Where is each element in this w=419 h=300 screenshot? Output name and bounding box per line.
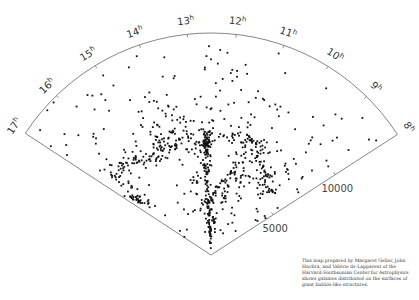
galaxy-point	[111, 164, 113, 166]
galaxy-point	[228, 155, 230, 157]
galaxy-point	[157, 107, 159, 109]
galaxy-point	[284, 165, 286, 167]
galaxy-point	[183, 116, 185, 118]
galaxy-point	[227, 174, 229, 176]
galaxy-point	[141, 159, 143, 161]
galaxy-point	[200, 151, 202, 153]
hour-label-10h: 10h	[325, 45, 346, 64]
galaxy-point	[165, 157, 167, 159]
galaxy-point	[209, 233, 211, 235]
galaxy-point	[124, 195, 126, 197]
galaxy-point	[222, 232, 224, 234]
galaxy-point	[196, 182, 198, 184]
galaxy-point	[138, 160, 140, 162]
galaxy-point	[248, 101, 250, 103]
galaxy-point	[145, 167, 147, 169]
galaxy-point	[206, 107, 208, 109]
galaxy-point	[237, 200, 239, 202]
galaxy-point	[325, 87, 327, 89]
galaxy-point	[100, 93, 102, 95]
galaxy-point	[168, 137, 170, 139]
galaxy-point	[275, 189, 277, 191]
galaxy-point	[260, 140, 262, 142]
galaxy-point	[264, 179, 266, 181]
galaxy-point	[236, 76, 238, 78]
galaxy-point	[223, 180, 225, 182]
galaxy-point	[206, 180, 208, 182]
galaxy-point	[208, 226, 210, 228]
galaxy-point	[231, 212, 233, 214]
galaxy-point	[205, 195, 207, 197]
galaxy-point	[280, 150, 282, 152]
galaxy-point	[244, 144, 246, 146]
galaxy-point	[208, 231, 210, 233]
galaxy-point	[265, 217, 267, 219]
galaxy-point	[133, 159, 135, 161]
galaxy-point	[200, 208, 202, 210]
galaxy-point	[242, 162, 244, 164]
galaxy-point	[195, 148, 197, 150]
galaxy-point	[236, 70, 238, 72]
galaxy-point	[195, 144, 197, 146]
galaxy-point	[209, 242, 211, 244]
galaxy-point	[95, 137, 97, 139]
galaxy-point	[200, 177, 202, 179]
galaxy-point	[87, 94, 89, 96]
galaxy-point	[238, 195, 240, 197]
galaxy-point	[231, 142, 233, 144]
galaxy-point	[223, 118, 225, 120]
galaxy-point	[210, 155, 212, 157]
galaxy-point	[219, 133, 221, 135]
galaxy-point	[197, 175, 199, 177]
galaxy-point	[155, 135, 157, 137]
galaxy-point	[128, 158, 130, 160]
galaxy-point	[130, 196, 132, 198]
galaxy-point	[223, 188, 225, 190]
galaxy-point	[238, 186, 240, 188]
galaxy-point	[210, 236, 212, 238]
galaxy-point	[267, 176, 269, 178]
galaxy-point	[164, 144, 166, 146]
galaxy-point	[295, 163, 297, 165]
galaxy-point	[235, 151, 237, 153]
galaxy-point	[251, 139, 253, 141]
galaxy-point	[99, 170, 101, 172]
galaxy-point	[199, 144, 201, 146]
galaxy-point	[163, 56, 165, 58]
galaxy-point	[302, 176, 304, 178]
galaxy-point	[263, 152, 265, 154]
galaxy-point	[123, 169, 125, 171]
galaxy-point	[128, 170, 130, 172]
galaxy-point	[209, 241, 211, 243]
galaxy-point	[204, 136, 206, 138]
galaxy-point	[208, 171, 210, 173]
galaxy-point	[240, 117, 242, 119]
galaxy-point	[247, 126, 249, 128]
galaxy-point	[234, 171, 236, 173]
galaxy-point	[256, 178, 258, 180]
galaxy-point	[244, 139, 246, 141]
galaxy-point	[277, 207, 279, 209]
galaxy-point	[153, 152, 155, 154]
galaxy-point	[250, 149, 252, 151]
galaxy-point	[227, 191, 229, 193]
galaxy-point	[263, 139, 265, 141]
galaxy-point	[212, 194, 214, 196]
galaxy-point	[127, 191, 129, 193]
galaxy-point	[115, 179, 117, 181]
galaxy-point	[205, 134, 207, 136]
galaxy-point	[249, 176, 251, 178]
galaxy-point	[171, 119, 173, 121]
galaxy-point	[256, 140, 258, 142]
galaxy-point	[221, 195, 223, 197]
galaxy-point	[262, 149, 264, 151]
galaxy-point	[190, 179, 192, 181]
galaxy-point	[148, 202, 150, 204]
galaxy-point	[256, 151, 258, 153]
galaxy-point	[247, 122, 249, 124]
hour-label-16h: 16h	[36, 75, 57, 96]
galaxy-point	[149, 206, 151, 208]
galaxy-point	[278, 115, 280, 117]
galaxy-point	[206, 132, 208, 134]
galaxy-point	[168, 106, 170, 108]
